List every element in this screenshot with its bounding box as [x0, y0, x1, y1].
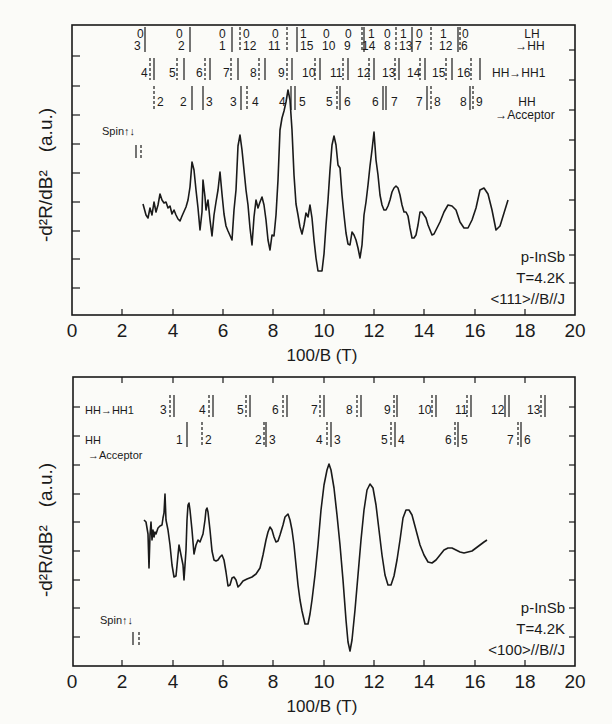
- top-orientation: <111>//B//J: [491, 290, 566, 307]
- xtick-label: 0: [67, 320, 78, 341]
- svg-text:4: 4: [398, 433, 405, 447]
- bottom-panel: 0 2 4 6 8 10 12 14 16 18 20 100/B (T) -d…: [35, 377, 586, 716]
- top-row3-label-a: HH: [518, 95, 535, 109]
- xtick-label: 10: [313, 320, 334, 341]
- bottom-row2-label-b: →Acceptor: [88, 449, 143, 461]
- figure: 0 2 4 6 8 10 12 14 16 18 20 100/B (T) -d…: [0, 0, 612, 724]
- xtick-label: 14: [413, 320, 435, 341]
- top-xtick-labels: 0 2 4 6 8 10 12 14 16 18 20: [67, 320, 586, 341]
- xtick-label: 4: [168, 320, 179, 341]
- bottom-sample: p-InSb: [521, 599, 565, 616]
- svg-text:5: 5: [461, 433, 468, 447]
- svg-text:15: 15: [300, 39, 314, 53]
- svg-text:3: 3: [160, 403, 167, 417]
- xtick-label: 10: [313, 671, 334, 692]
- svg-text:2: 2: [180, 95, 187, 109]
- svg-text:4: 4: [199, 403, 206, 417]
- svg-text:16: 16: [457, 66, 471, 80]
- xtick-label: 12: [363, 320, 384, 341]
- svg-text:7: 7: [311, 403, 318, 417]
- bottom-row1-label: HH→HH1: [85, 404, 134, 416]
- xtick-label: 6: [218, 671, 229, 692]
- svg-text:5: 5: [326, 95, 333, 109]
- svg-text:2: 2: [178, 39, 185, 53]
- top-y-axis-label: -d²R/dB²(a.u.): [35, 108, 56, 242]
- xtick-label: 16: [464, 320, 485, 341]
- svg-text:11: 11: [330, 66, 343, 80]
- xtick-label: 16: [464, 671, 485, 692]
- svg-text:2: 2: [157, 95, 164, 109]
- xtick-label: 0: [67, 671, 78, 692]
- xtick-label: 18: [514, 671, 535, 692]
- svg-text:6: 6: [445, 433, 452, 447]
- xtick-label: 8: [268, 671, 279, 692]
- bottom-y-axis-title: -d²R/dB²(a.u.): [35, 463, 56, 597]
- svg-text:10: 10: [302, 66, 316, 80]
- top-row1-label-b: →HH: [515, 39, 544, 53]
- svg-text:14: 14: [407, 66, 421, 80]
- svg-text:6: 6: [524, 433, 531, 447]
- top-row2-label: HH→HH1: [492, 66, 546, 80]
- top-xticks: [122, 309, 525, 315]
- svg-text:3: 3: [134, 39, 141, 53]
- top-hh-acceptor-marks: [154, 86, 473, 110]
- svg-text:5: 5: [169, 66, 176, 80]
- bottom-xtick-labels: 0 2 4 6 8 10 12 14 16 18 20: [67, 671, 586, 692]
- xtick-label: 2: [117, 320, 128, 341]
- xtick-label: 2: [117, 671, 128, 692]
- svg-text:8: 8: [250, 66, 257, 80]
- xtick-label: 20: [564, 671, 585, 692]
- bottom-hh-acceptor-marks: [187, 422, 521, 447]
- svg-text:10: 10: [418, 403, 432, 417]
- svg-text:13: 13: [527, 403, 541, 417]
- svg-text:9: 9: [384, 403, 391, 417]
- svg-text:2: 2: [255, 433, 262, 447]
- bottom-row2-label-a: HH: [85, 434, 101, 446]
- top-hh-acceptor-row: 223 344 556 677 889: [157, 95, 483, 109]
- svg-text:8: 8: [346, 403, 353, 417]
- bottom-temperature: T=4.2K: [516, 620, 565, 637]
- svg-text:6: 6: [372, 95, 379, 109]
- svg-text:8: 8: [434, 95, 441, 109]
- top-curve: [143, 90, 508, 271]
- svg-text:3: 3: [269, 433, 276, 447]
- bottom-curve: [144, 464, 487, 651]
- xtick-label: 14: [413, 671, 435, 692]
- svg-text:7: 7: [391, 95, 398, 109]
- bottom-x-axis-title: 100/B (T): [287, 697, 358, 716]
- top-y-axis-title: -d²R/dB²(a.u.): [35, 108, 56, 242]
- bottom-hh-acceptor-row: 12 23 43 54 65 76: [176, 433, 531, 447]
- svg-text:12: 12: [243, 39, 257, 53]
- svg-text:15: 15: [432, 66, 446, 80]
- svg-text:4: 4: [316, 433, 323, 447]
- svg-text:6: 6: [344, 95, 351, 109]
- svg-text:1: 1: [176, 433, 183, 447]
- xtick-label: 18: [514, 320, 535, 341]
- svg-text:6: 6: [461, 39, 468, 53]
- xtick-label: 6: [218, 320, 229, 341]
- svg-text:7: 7: [415, 39, 422, 53]
- top-spin-label: Spin↑↓: [102, 125, 135, 137]
- svg-text:4: 4: [141, 66, 148, 80]
- bottom-hh-hh1-marks: [170, 395, 545, 417]
- svg-text:8: 8: [384, 39, 391, 53]
- top-hh-hh1-row: 456 789 101112 131415 16: [141, 66, 471, 80]
- svg-text:11: 11: [455, 403, 468, 417]
- top-temperature: T=4.2K: [516, 269, 565, 286]
- svg-text:5: 5: [299, 95, 306, 109]
- svg-text:4: 4: [252, 95, 259, 109]
- svg-text:2: 2: [205, 433, 212, 447]
- xtick-label: 20: [564, 320, 585, 341]
- top-legend-block: p-InSb T=4.2K <111>//B//J: [491, 248, 566, 307]
- svg-text:12: 12: [439, 39, 453, 53]
- svg-text:11: 11: [268, 39, 281, 53]
- bottom-plot-frame: [73, 377, 575, 666]
- bottom-y-axis-label: -d²R/dB²(a.u.): [35, 463, 56, 597]
- svg-text:6: 6: [196, 66, 203, 80]
- top-sample: p-InSb: [521, 248, 565, 265]
- svg-text:13: 13: [382, 66, 396, 80]
- top-row3-label-b: →Acceptor: [495, 108, 554, 122]
- svg-text:3: 3: [206, 95, 213, 109]
- xtick-label: 4: [168, 671, 179, 692]
- svg-text:5: 5: [237, 403, 244, 417]
